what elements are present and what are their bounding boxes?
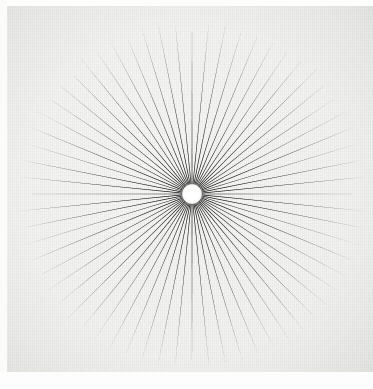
ray	[15, 194, 183, 195]
ray	[197, 202, 290, 341]
ray	[125, 203, 189, 357]
ray	[201, 194, 369, 195]
ray	[198, 69, 317, 188]
ray	[38, 112, 184, 190]
ray	[45, 96, 184, 189]
ray	[201, 197, 355, 261]
ray	[175, 19, 192, 185]
ray	[200, 111, 348, 190]
ray	[67, 200, 186, 319]
ray	[18, 177, 183, 194]
ray	[198, 200, 315, 317]
ray	[200, 97, 338, 189]
ray	[36, 198, 184, 277]
photo-margin-bottom	[0, 372, 373, 389]
ray	[17, 195, 183, 212]
ray	[201, 127, 355, 191]
ray	[109, 38, 188, 186]
ray	[94, 202, 187, 341]
ray	[175, 203, 192, 369]
artwork-page	[0, 0, 373, 389]
ray	[195, 31, 259, 185]
ray	[193, 19, 210, 185]
ray	[94, 48, 187, 187]
ray	[192, 203, 193, 371]
ray	[68, 70, 185, 187]
ray	[196, 38, 275, 186]
ray	[200, 199, 339, 292]
ray	[197, 48, 290, 187]
ray	[195, 203, 259, 356]
center-hub	[182, 184, 203, 205]
ray	[196, 202, 275, 350]
starburst-figure	[0, 0, 373, 389]
ray	[125, 32, 189, 185]
ray	[201, 195, 366, 212]
ray	[192, 17, 193, 185]
ray	[29, 197, 183, 261]
ray	[29, 127, 183, 191]
ray	[201, 177, 367, 194]
photo-margin-top	[0, 0, 373, 6]
ray	[200, 198, 346, 276]
ray	[193, 203, 210, 369]
ray	[46, 199, 184, 291]
photo-margin-left	[0, 0, 7, 389]
ray	[109, 202, 188, 350]
